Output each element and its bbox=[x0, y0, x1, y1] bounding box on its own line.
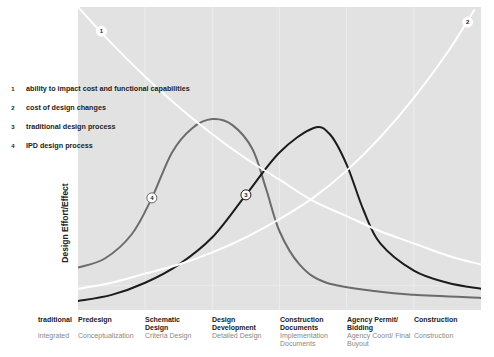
phase-6: Construction Construction bbox=[414, 316, 484, 340]
phase-2: Schematic Design Criteria Design bbox=[145, 316, 205, 340]
row-label-integrated: integrated bbox=[38, 332, 69, 339]
chart-plot: 1234 bbox=[0, 0, 494, 357]
row-label-traditional: traditional bbox=[38, 316, 72, 323]
phase-4: Construction Documents Implementation Do… bbox=[280, 316, 344, 348]
legend-number-badge: 4 bbox=[8, 141, 18, 151]
legend: 1 ability to impact cost and functional … bbox=[8, 79, 190, 155]
legend-number-badge: 3 bbox=[8, 122, 18, 132]
phase-integrated-label: Criteria Design bbox=[145, 332, 205, 340]
y-axis-label: Design Effort/Effect bbox=[60, 173, 70, 273]
phase-integrated-label: Agency Coord/ Final Buyout bbox=[347, 332, 411, 348]
phase-integrated-label: Detailed Design bbox=[212, 332, 276, 340]
phase-traditional-label: Schematic Design bbox=[145, 316, 205, 332]
legend-label: ability to impact cost and functional ca… bbox=[26, 84, 190, 93]
phase-traditional-label: Construction bbox=[414, 316, 484, 332]
legend-number-badge: 1 bbox=[8, 84, 18, 94]
legend-label: cost of design changes bbox=[26, 103, 106, 112]
phase-traditional-label: Design Development bbox=[212, 316, 276, 332]
phase-traditional-label: Construction Documents bbox=[280, 316, 344, 332]
legend-label: IPD design process bbox=[26, 141, 93, 150]
phase-integrated-label: Conceptualization bbox=[78, 332, 146, 340]
phase-5: Agency Permit/ Bidding Agency Coord/ Fin… bbox=[347, 316, 411, 348]
phase-integrated-label: Implementation Documents bbox=[280, 332, 344, 348]
legend-label: traditional design process bbox=[26, 122, 115, 131]
phase-integrated-label: Construction bbox=[414, 332, 484, 340]
series-marker-1: 1 bbox=[97, 26, 107, 36]
legend-item-3: 3 traditional design process bbox=[8, 117, 190, 136]
phase-traditional-label: Agency Permit/ Bidding bbox=[347, 316, 411, 332]
legend-item-4: 4 IPD design process bbox=[8, 136, 190, 155]
series-marker-3: 3 bbox=[241, 190, 251, 200]
phase-3: Design Development Detailed Design bbox=[212, 316, 276, 340]
phase-traditional-label: Predesign bbox=[78, 316, 146, 332]
legend-item-1: 1 ability to impact cost and functional … bbox=[8, 79, 190, 98]
phase-1: Predesign Conceptualization bbox=[78, 316, 146, 340]
legend-item-2: 2 cost of design changes bbox=[8, 98, 190, 117]
legend-number-badge: 2 bbox=[8, 103, 18, 113]
series-marker-2: 2 bbox=[463, 17, 473, 27]
series-marker-4: 4 bbox=[147, 193, 157, 203]
